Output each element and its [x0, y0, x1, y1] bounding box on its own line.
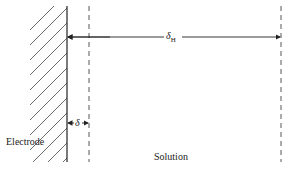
electrode-label: Electrode	[6, 137, 44, 147]
double-layer-diagram	[0, 0, 297, 173]
solution-label: Solution	[154, 152, 188, 162]
delta-h-label: δH	[166, 31, 176, 44]
delta-label: δ	[75, 118, 80, 128]
electrode-hatching	[30, 0, 67, 173]
